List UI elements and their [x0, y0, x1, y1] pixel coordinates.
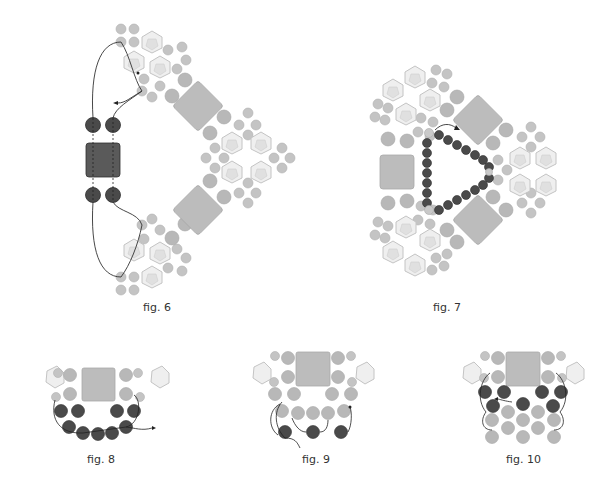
fig6-caption: fig. 6: [143, 301, 171, 314]
figure-9: fig. 9: [240, 340, 390, 480]
figure-10: fig. 10: [450, 340, 600, 480]
fig9-diagram: [240, 340, 390, 450]
figure-7: fig. 7: [350, 40, 580, 330]
fig8-diagram: [30, 340, 200, 450]
fig10-diagram: [450, 340, 600, 450]
fig9-caption: fig. 9: [302, 453, 330, 466]
fig7-diagram: [350, 40, 580, 300]
fig6-diagram: [0, 0, 310, 300]
figure-6: fig. 6: [0, 0, 310, 330]
figure-8: fig. 8: [30, 340, 200, 480]
thread-end-marker: [137, 72, 140, 75]
fig10-caption: fig. 10: [506, 453, 541, 466]
fig8-caption: fig. 8: [87, 453, 115, 466]
fig7-caption: fig. 7: [433, 301, 461, 314]
